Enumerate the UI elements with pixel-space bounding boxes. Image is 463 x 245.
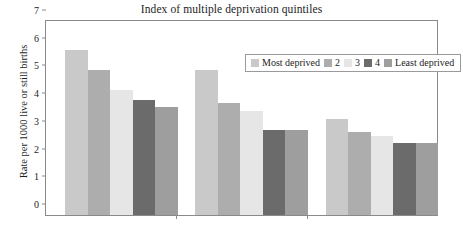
y-tick-4: 4	[34, 88, 46, 99]
legend-swatch-icon	[324, 59, 332, 67]
legend-label: Most deprived	[262, 57, 320, 68]
legend-label: 2	[335, 57, 340, 68]
plot-area: 01234567 Most deprived234Least deprived	[45, 20, 438, 216]
bar	[285, 130, 308, 215]
y-tick-label: 2	[34, 143, 42, 154]
chart-legend: Most deprived234Least deprived	[245, 54, 461, 72]
bar	[218, 103, 241, 215]
legend-entry: Most deprived	[251, 57, 320, 68]
y-tick-mark	[42, 10, 46, 11]
legend-entry: Least deprived	[384, 57, 454, 68]
y-tick-7: 7	[34, 5, 46, 16]
y-tick-1: 1	[34, 171, 46, 182]
y-tick-label: 0	[34, 199, 42, 210]
y-axis-label: Rate per 1000 live or still births	[18, 17, 29, 207]
chart-title: Index of multiple deprivation quintiles	[0, 3, 463, 15]
bar	[133, 100, 156, 215]
bar	[416, 143, 439, 215]
bar	[65, 50, 88, 215]
bar	[155, 107, 178, 215]
legend-entry: 2	[324, 57, 340, 68]
bar-chart: Index of multiple deprivation quintiles …	[0, 0, 463, 245]
bar	[240, 111, 263, 215]
y-tick-0: 0	[34, 199, 46, 210]
legend-label: 4	[375, 57, 380, 68]
legend-swatch-icon	[251, 59, 259, 67]
y-tick-label: 6	[34, 32, 42, 43]
legend-entry: 4	[364, 57, 380, 68]
y-tick-3: 3	[34, 115, 46, 126]
bar	[110, 90, 133, 215]
legend-swatch-icon	[384, 59, 392, 67]
bar	[393, 143, 416, 215]
legend-label: 3	[355, 57, 360, 68]
y-tick-label: 4	[34, 88, 42, 99]
y-tick-5: 5	[34, 60, 46, 71]
bar	[348, 132, 371, 215]
y-tick-6: 6	[34, 32, 46, 43]
bars-layer	[46, 21, 437, 215]
bar	[326, 119, 349, 215]
y-tick-label: 1	[34, 171, 42, 182]
legend-swatch-icon	[344, 59, 352, 67]
y-tick-label: 3	[34, 115, 42, 126]
legend-label: Least deprived	[395, 57, 454, 68]
bar	[88, 70, 111, 216]
y-tick-2: 2	[34, 143, 46, 154]
bar	[263, 130, 286, 215]
legend-entry: 3	[344, 57, 360, 68]
bar	[195, 70, 218, 216]
y-tick-label: 5	[34, 60, 42, 71]
y-tick-label: 7	[34, 5, 42, 16]
legend-swatch-icon	[364, 59, 372, 67]
x-tick-mark	[307, 215, 308, 219]
bar	[371, 136, 394, 215]
x-tick-mark	[176, 215, 177, 219]
